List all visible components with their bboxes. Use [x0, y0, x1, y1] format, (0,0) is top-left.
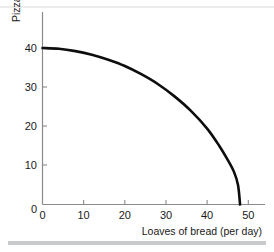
x-tick-label-30: 30	[160, 209, 172, 221]
ppf-chart: 40 30 20 10 0 0 10 20 30 40 50 Loaves of…	[0, 0, 274, 252]
y-tick-label-20: 20	[25, 120, 37, 132]
x-axis-ticks	[84, 200, 249, 205]
y-tick-label-0: 0	[31, 203, 37, 215]
x-axis-title: Loaves of bread (per day)	[142, 225, 262, 237]
x-tick-label-50: 50	[242, 209, 254, 221]
x-tick-label-40: 40	[201, 209, 213, 221]
y-tick-label-10: 10	[25, 159, 37, 171]
y-axis-title: Pizza (per day)	[10, 0, 22, 22]
x-tick-label-10: 10	[77, 209, 89, 221]
chart-page: 40 30 20 10 0 0 10 20 30 40 50 Loaves of…	[0, 0, 274, 252]
y-axis-ticks	[43, 48, 48, 165]
y-tick-label-40: 40	[25, 42, 37, 54]
bottom-divider-rule	[8, 241, 266, 245]
ppf-curve	[43, 48, 241, 205]
y-tick-label-30: 30	[25, 81, 37, 93]
x-tick-label-20: 20	[119, 209, 131, 221]
x-tick-label-0: 0	[39, 209, 45, 221]
